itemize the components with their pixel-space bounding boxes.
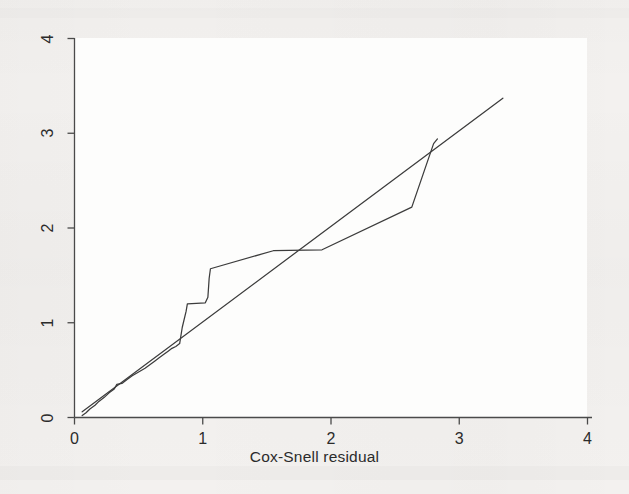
y-tick-label: 1 (40, 314, 56, 332)
data-series-layer (82, 98, 503, 415)
figure-page: 0123401234 Cox-Snell residual (0, 0, 629, 494)
y-tick-label: 2 (40, 219, 56, 237)
x-tick-label: 0 (65, 431, 85, 447)
x-axis-ticks (75, 418, 588, 425)
chart-svg (0, 0, 629, 494)
series-reference-line (82, 98, 503, 412)
y-axis-ticks (68, 39, 75, 418)
series-cumulative-hazard (82, 139, 437, 416)
y-tick-label: 4 (40, 30, 56, 48)
x-tick-label: 3 (449, 431, 469, 447)
x-axis-title: Cox-Snell residual (0, 448, 629, 466)
x-tick-label: 4 (578, 431, 598, 447)
y-tick-label: 0 (40, 409, 56, 427)
x-tick-label: 2 (321, 431, 341, 447)
y-tick-label: 3 (40, 124, 56, 142)
x-tick-label: 1 (193, 431, 213, 447)
